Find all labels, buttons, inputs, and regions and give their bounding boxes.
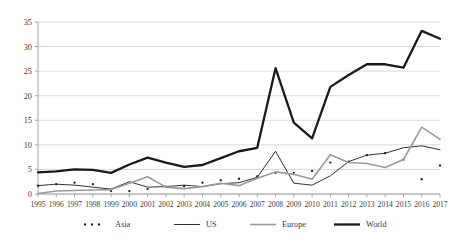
legend-label-europe: Europe (282, 220, 306, 229)
x-tick-label: 2016 (414, 200, 429, 209)
line-chart: 05101520253035 1995199619971998199920002… (0, 0, 453, 243)
x-tick-label: 2011 (323, 200, 338, 209)
legend-marker-asia (91, 223, 93, 225)
chart-canvas: 05101520253035 1995199619971998199920002… (0, 0, 453, 243)
legend-label-asia: Asia (115, 220, 131, 229)
x-axis-tick-labels: 1995199619971998199920002001200220032004… (30, 200, 447, 209)
series-point-asia (311, 170, 313, 172)
x-tick-label: 1999 (103, 200, 118, 209)
y-tick-label: 5 (28, 165, 32, 174)
x-tick-label: 2014 (378, 200, 393, 209)
series-point-asia (421, 178, 423, 180)
x-tick-label: 2007 (250, 200, 265, 209)
legend-marker-asia (98, 223, 100, 225)
series-point-asia (73, 182, 75, 184)
series-line-europe (38, 127, 440, 193)
x-tick-label: 1997 (67, 200, 82, 209)
x-tick-label: 2003 (177, 200, 192, 209)
x-tick-label: 1996 (49, 200, 64, 209)
legend-label-world: World (366, 220, 387, 229)
y-tick-label: 10 (24, 141, 32, 150)
series-point-asia (146, 188, 148, 190)
series-point-asia (238, 178, 240, 180)
series-point-asia (439, 164, 441, 166)
gridlines-group (38, 22, 440, 194)
series-point-asia (220, 179, 222, 181)
x-tick-label: 2008 (268, 200, 283, 209)
y-tick-label: 30 (24, 43, 32, 52)
x-tick-label: 2012 (341, 200, 356, 209)
y-tick-label: 35 (24, 18, 32, 27)
x-tick-label: 2002 (158, 200, 173, 209)
series-point-asia (92, 183, 94, 185)
x-tick-label: 2005 (213, 200, 228, 209)
x-tick-label: 1998 (85, 200, 100, 209)
x-tick-label: 2017 (432, 200, 447, 209)
y-tick-label: 25 (24, 67, 32, 76)
x-tick-label: 2015 (396, 200, 411, 209)
y-tick-label: 0 (28, 190, 32, 199)
series-point-asia (329, 161, 331, 163)
x-tick-label: 2004 (195, 200, 210, 209)
x-tick-label: 1995 (30, 200, 45, 209)
series-point-asia (128, 190, 130, 192)
legend-label-us: US (206, 220, 217, 229)
x-tick-label: 2009 (286, 200, 301, 209)
chart-legend: AsiaUSEuropeWorld (84, 220, 388, 229)
series-point-asia (201, 182, 203, 184)
series-line-world (38, 31, 440, 173)
x-tick-label: 2006 (231, 200, 246, 209)
y-axis-tick-labels: 05101520253035 (24, 18, 32, 199)
y-tick-label: 15 (24, 116, 32, 125)
x-tick-label: 2001 (140, 200, 155, 209)
x-tick-label: 2000 (122, 200, 137, 209)
x-tick-label: 2010 (304, 200, 319, 209)
y-tick-label: 20 (24, 92, 32, 101)
legend-marker-asia (84, 223, 86, 225)
x-tick-label: 2013 (359, 200, 374, 209)
